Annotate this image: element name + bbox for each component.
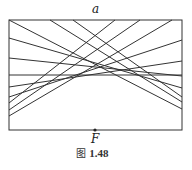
fold-line bbox=[50, 20, 182, 102]
caption-prefix: 图 bbox=[76, 148, 86, 159]
fold-line bbox=[9, 20, 115, 103]
caption-number: 1.48 bbox=[89, 147, 108, 159]
fold-line bbox=[9, 38, 182, 88]
top-edge-label: a bbox=[92, 3, 99, 15]
fold-line bbox=[9, 20, 140, 110]
figure-caption: 图 1.48 bbox=[76, 148, 108, 159]
fold-line bbox=[9, 20, 172, 116]
focus-label: F bbox=[91, 133, 99, 145]
fold-line bbox=[73, 20, 182, 97]
fold-lines bbox=[9, 20, 182, 116]
fold-line bbox=[9, 58, 182, 76]
